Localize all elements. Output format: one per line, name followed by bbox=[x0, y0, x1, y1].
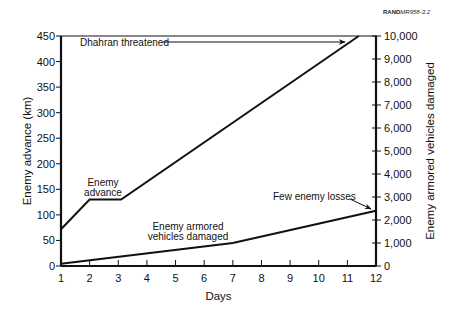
y2-tick-label: 10,000 bbox=[384, 30, 418, 42]
y2-tick-label: 1,000 bbox=[384, 237, 412, 249]
annotation-dhahran-threatened: Dhahran threatened bbox=[80, 37, 169, 48]
x-tick-label: 8 bbox=[258, 272, 264, 284]
y2-tick-label: 2,000 bbox=[384, 214, 412, 226]
x-tick-label: 2 bbox=[87, 272, 93, 284]
x-tick-label: 3 bbox=[115, 272, 121, 284]
x-tick-label: 11 bbox=[342, 272, 353, 284]
y2-tick-label: 3,000 bbox=[384, 191, 412, 203]
x-tick-label: 9 bbox=[287, 272, 293, 284]
y-tick-label: 0 bbox=[49, 260, 55, 272]
y2-axis-title: Enemy armored vehicles damaged bbox=[424, 62, 436, 240]
y2-tick-label: 6,000 bbox=[384, 122, 412, 134]
x-tick-label: 6 bbox=[201, 272, 207, 284]
y2-tick-label: 7,000 bbox=[384, 99, 412, 111]
x-tick-label: 1 bbox=[58, 272, 64, 284]
y-axis-title: Enemy advance (km) bbox=[21, 97, 33, 206]
y-tick-label: 150 bbox=[37, 183, 55, 195]
annotation-few-enemy-losses: Few enemy losses bbox=[273, 191, 356, 202]
x-tick-label: 10 bbox=[313, 272, 325, 284]
y-tick-label: 350 bbox=[37, 81, 55, 93]
annotation-vehicles-line2: vehicles damaged bbox=[148, 231, 229, 242]
y2-tick-label: 0 bbox=[384, 260, 390, 272]
y2-tick-label: 4,000 bbox=[384, 168, 412, 180]
x-tick-label: 7 bbox=[230, 272, 236, 284]
y-tick-label: 200 bbox=[37, 158, 55, 170]
y-tick-label: 400 bbox=[37, 56, 55, 68]
annotations: Dhahran threatenedEnemyadvanceEnemy armo… bbox=[80, 37, 371, 242]
y-tick-label: 250 bbox=[37, 132, 55, 144]
y2-tick-label: 8,000 bbox=[384, 76, 412, 88]
x-tick-label: 12 bbox=[370, 272, 382, 284]
y-tick-label: 50 bbox=[43, 234, 55, 246]
y-tick-label: 300 bbox=[37, 107, 55, 119]
x-axis-title: Days bbox=[205, 290, 231, 302]
y2-tick-label: 9,000 bbox=[384, 53, 412, 65]
x-tick-label: 5 bbox=[172, 272, 178, 284]
y-tick-label: 100 bbox=[37, 209, 55, 221]
y2-tick-label: 5,000 bbox=[384, 145, 412, 157]
x-tick-label: 4 bbox=[144, 272, 150, 284]
annotation-enemy-advance-line2: advance bbox=[84, 187, 122, 198]
line-chart: 05010015020025030035040045001,0002,0003,… bbox=[0, 0, 450, 321]
y-tick-label: 450 bbox=[37, 30, 55, 42]
